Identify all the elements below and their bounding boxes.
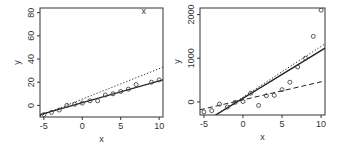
y-tick-label: 80 — [26, 8, 36, 18]
fit-line-solid — [40, 80, 163, 115]
plot-panel-right: -50510010002000xy — [172, 5, 326, 142]
fit-line-solid — [216, 48, 325, 115]
x-tick-label: 10 — [154, 121, 164, 131]
y-tick-label: 40 — [26, 54, 36, 64]
y-tick-label: 1000 — [186, 48, 196, 68]
x-tick-label: -5 — [200, 119, 208, 129]
data-point — [272, 93, 276, 97]
x-tick-label: -5 — [40, 121, 48, 131]
data-point — [311, 34, 315, 38]
fit-line-dotted — [216, 44, 325, 115]
y-axis-label: y — [172, 59, 182, 64]
x-tick-label: 0 — [240, 119, 245, 129]
x-tick-label: 10 — [316, 119, 326, 129]
data-point — [319, 8, 323, 12]
data-point — [134, 83, 138, 87]
plot-panel-left: -50510020406080xyx — [12, 6, 164, 144]
x-axis-label: x — [99, 134, 104, 144]
data-point — [288, 80, 292, 84]
chart-figure: -50510020406080xyx-50510010002000xy — [0, 0, 340, 148]
x-tick-label: 5 — [280, 119, 285, 129]
data-point — [202, 110, 206, 114]
x-axis-label: x — [260, 132, 265, 142]
data-point — [210, 109, 214, 113]
plot-frame — [40, 8, 163, 117]
y-tick-label: 2000 — [186, 5, 196, 25]
data-point — [257, 103, 261, 107]
y-tick-label: 0 — [186, 99, 196, 104]
data-point — [96, 99, 100, 103]
y-axis-label: y — [12, 60, 22, 65]
y-tick-label: 20 — [26, 77, 36, 87]
y-tick-label: 60 — [26, 31, 36, 41]
x-tick-label: 5 — [118, 121, 123, 131]
y-tick-label: 0 — [26, 103, 36, 108]
plot-frame — [200, 8, 325, 115]
x-tick-label: 0 — [80, 121, 85, 131]
